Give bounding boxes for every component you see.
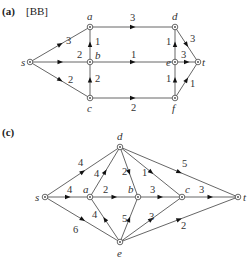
node-label-c: c [87, 102, 92, 114]
edge-capacity-d-t: 3 [190, 33, 195, 44]
arrowhead-icon [102, 168, 109, 175]
node-label-a: a [83, 183, 89, 195]
edge-capacity-s-e: 6 [73, 224, 78, 235]
arrowhead-icon [79, 169, 86, 176]
edge-capacity-c-t: 3 [199, 184, 204, 195]
node-label-a: a [87, 10, 93, 22]
node-center-icon [89, 196, 91, 198]
arrowhead-icon [130, 25, 136, 29]
node-center-icon [174, 26, 176, 28]
edge-capacity-f-t: 1 [190, 78, 195, 89]
edge-capacity-b-c: 3 [150, 184, 155, 195]
arrowhead-icon [183, 76, 190, 83]
node-label-s: s [35, 191, 39, 203]
arrowhead-icon [88, 77, 92, 83]
node-center-icon [119, 146, 121, 148]
edge-capacity-e-d: 1 [166, 36, 171, 47]
edge-capacity-d-b: 2 [122, 166, 127, 177]
arrowhead-icon [58, 60, 64, 64]
node-center-icon [89, 61, 91, 63]
edge-capacity-d-t: 5 [182, 158, 187, 169]
arrowhead-icon [57, 77, 64, 84]
edge-capacity-c-f: 2 [131, 102, 136, 113]
edge-capacity-s-a: 4 [67, 184, 73, 195]
arrowhead-icon [65, 195, 71, 199]
diagram-c: (c) 44642421535332sadbcet [2, 126, 247, 259]
panel-reference-a: [BB] [26, 5, 48, 17]
node-center-icon [174, 61, 176, 63]
flow-network-figure: (a) [BB] 3221231211331sabcdeft (c) 44642… [0, 0, 249, 264]
arrowhead-icon [208, 195, 214, 199]
node-center-icon [44, 196, 46, 198]
labels-c: 44642421535332sadbcet [35, 130, 247, 259]
edge-capacity-f-e: 1 [166, 73, 171, 84]
edge-capacity-s-d: 4 [78, 157, 84, 168]
arrowhead-icon [176, 169, 183, 175]
node-center-icon [197, 61, 199, 63]
node-center-icon [237, 196, 239, 198]
node-center-icon [89, 97, 91, 99]
arrowhead-icon [183, 41, 190, 48]
node-center-icon [119, 241, 121, 243]
node-center-icon [29, 61, 31, 63]
node-label-e: e [117, 247, 122, 259]
arrowhead-icon [79, 216, 86, 223]
arrowhead-icon [112, 195, 118, 199]
panel-label-a: (a) [2, 5, 15, 18]
node-label-d: d [172, 10, 178, 22]
node-label-f: f [172, 102, 177, 114]
arrowhead-icon [173, 77, 177, 83]
node-label-d: d [117, 130, 123, 142]
edge-capacity-a-b: 2 [103, 184, 108, 195]
node-center-icon [137, 196, 139, 198]
arrowhead-icon [173, 42, 177, 48]
arrowhead-icon [102, 216, 109, 223]
edge-capacity-e-c: 3 [149, 211, 154, 222]
edge-capacity-c-b: 2 [95, 73, 100, 84]
node-center-icon [181, 196, 183, 198]
edge-capacity-e-t: 2 [181, 220, 186, 231]
arrowhead-icon [57, 41, 64, 48]
panel-label-c: (c) [2, 126, 15, 139]
edge-capacity-s-b: 2 [77, 49, 82, 60]
edge-capacity-b-e: 1 [131, 49, 136, 60]
arrowhead-icon [184, 60, 190, 64]
arrowhead-icon [158, 195, 164, 199]
edge-capacity-e-b: 5 [122, 213, 127, 224]
diagram-a: (a) [BB] 3221231211331sabcdeft [2, 5, 206, 114]
edge-capacity-b-a: 1 [95, 36, 100, 47]
edge-capacity-d-c: 1 [142, 167, 147, 178]
arrowhead-icon [88, 42, 92, 48]
node-label-t: t [243, 191, 247, 203]
node-label-c: c [185, 183, 190, 195]
arrowhead-icon [130, 60, 136, 64]
node-label-s: s [21, 56, 25, 68]
edge-capacity-a-d: 3 [130, 12, 135, 23]
edge-capacity-e-t: 3 [181, 49, 186, 60]
node-label-t: t [202, 56, 206, 68]
node-label-b: b [95, 49, 101, 61]
node-center-icon [174, 97, 176, 99]
node-center-icon [89, 26, 91, 28]
edge-capacity-a-d: 4 [94, 168, 100, 179]
edge-capacity-s-c: 2 [68, 74, 73, 85]
arrowhead-icon [130, 96, 136, 100]
edge-capacity-e-a: 4 [92, 209, 98, 220]
node-label-b: b [128, 183, 134, 195]
node-label-e: e [166, 56, 171, 68]
edge-capacity-s-a: 3 [66, 35, 71, 46]
